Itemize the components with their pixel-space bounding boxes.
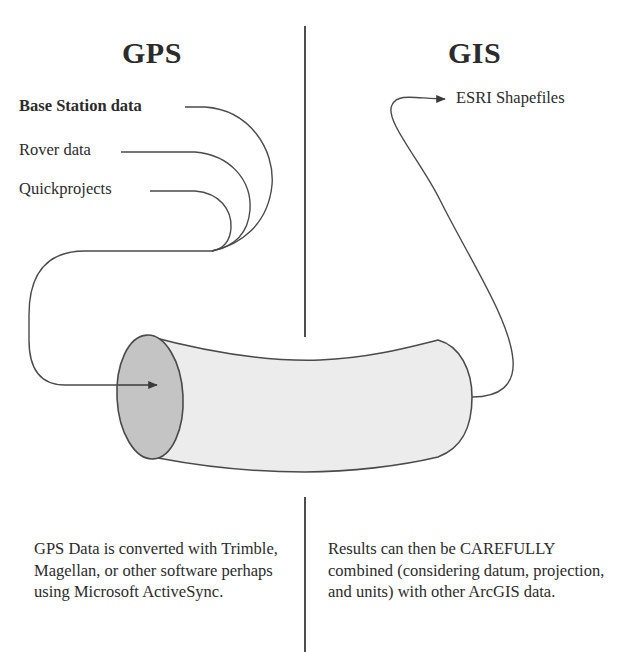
conversion-tube-body — [148, 336, 472, 472]
gis-heading: GIS — [448, 38, 501, 68]
source-label-base-station: Base Station data — [19, 98, 142, 115]
source-label-quickprojects: Quickprojects — [19, 181, 112, 198]
gis-description: Results can then be CAREFULLY combined (… — [328, 538, 620, 603]
output-label-esri-shapefiles: ESRI Shapefiles — [456, 90, 565, 107]
rover-connector — [121, 152, 250, 251]
quickprojects-connector — [150, 191, 231, 251]
base-station-connector — [185, 107, 272, 251]
gps-heading: GPS — [122, 38, 182, 68]
source-label-rover: Rover data — [19, 142, 91, 159]
gps-description: GPS Data is converted with Trimble, Mage… — [34, 538, 284, 603]
